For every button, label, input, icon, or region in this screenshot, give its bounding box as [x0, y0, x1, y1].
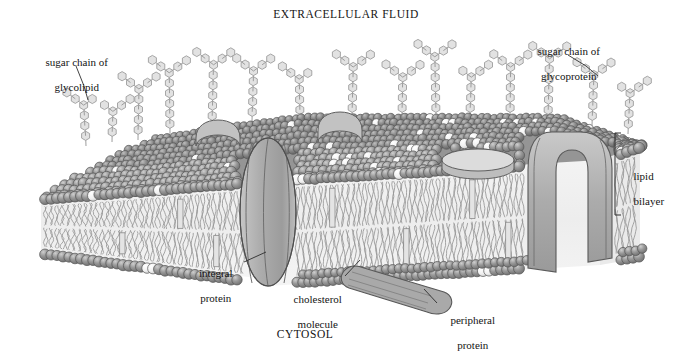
label-line-2: protein: [457, 339, 488, 351]
sugar-unit: [448, 40, 456, 49]
sugar-unit: [152, 72, 160, 81]
phospholipid-head: [638, 244, 647, 253]
sugar-unit: [416, 60, 424, 69]
sugar-unit: [431, 52, 439, 61]
phospholipid-head: [232, 178, 243, 189]
sugar-unit: [358, 56, 366, 65]
sugar-unit: [366, 50, 374, 59]
label-line-2: protein: [200, 292, 231, 304]
sugar-unit: [459, 66, 467, 75]
label-line-2: bilayer: [634, 195, 665, 207]
integral-protein-label: integral protein: [180, 255, 246, 304]
sugar-unit: [148, 55, 156, 64]
label-line-1: lipid: [634, 170, 654, 182]
integral-protein-shape: [240, 138, 296, 286]
label-line-1: integral: [199, 267, 233, 279]
label-line-1: cholesterol: [294, 293, 342, 305]
sugar-unit: [618, 82, 626, 91]
peripheral-protein-label: peripheral protein: [432, 302, 508, 351]
sugar-unit: [267, 54, 275, 63]
sugar-unit: [101, 100, 109, 109]
sugar-unit: [643, 76, 651, 85]
sugar-unit: [490, 50, 498, 59]
sugar-unit: [193, 47, 201, 56]
label-line-2: glycolipid: [54, 81, 99, 93]
label-line-1: sugar chain of: [538, 45, 600, 57]
cholesterol-molecule-label: cholesterol molecule: [276, 281, 354, 330]
sugar-unit: [382, 60, 390, 69]
extracellular-fluid-label: EXTRACELLULAR FLUID: [246, 8, 446, 21]
lipid-bilayer-label: lipid bilayer: [628, 158, 688, 207]
surface-protein-disc: [442, 149, 514, 179]
label-line-2: molecule: [298, 318, 338, 330]
label-line-2: glycoprotein: [541, 70, 597, 82]
sugar-unit: [485, 60, 493, 69]
sugar-unit: [182, 56, 190, 65]
sugar-unit: [414, 39, 422, 48]
label-line-1: sugar chain of: [46, 56, 108, 68]
phospholipid-head: [633, 142, 644, 153]
sugar-unit: [233, 54, 241, 63]
sugar-unit: [304, 68, 312, 77]
label-line-1: peripheral: [450, 314, 495, 326]
sugar-unit: [88, 94, 96, 103]
sugar-unit: [332, 50, 340, 59]
membrane-diagram: EXTRACELLULAR FLUID CYTOSOL sugar chain …: [0, 0, 692, 355]
sugar-chain-glycolipid-label: sugar chain of glycolipid: [12, 44, 136, 93]
sugar-chain-glycoprotein-label: sugar chain of glycoprotein: [498, 33, 634, 82]
sugar-unit: [126, 94, 134, 103]
sugar-unit: [278, 62, 286, 71]
phospholipid-head: [514, 161, 525, 172]
sugar-unit: [218, 54, 226, 63]
